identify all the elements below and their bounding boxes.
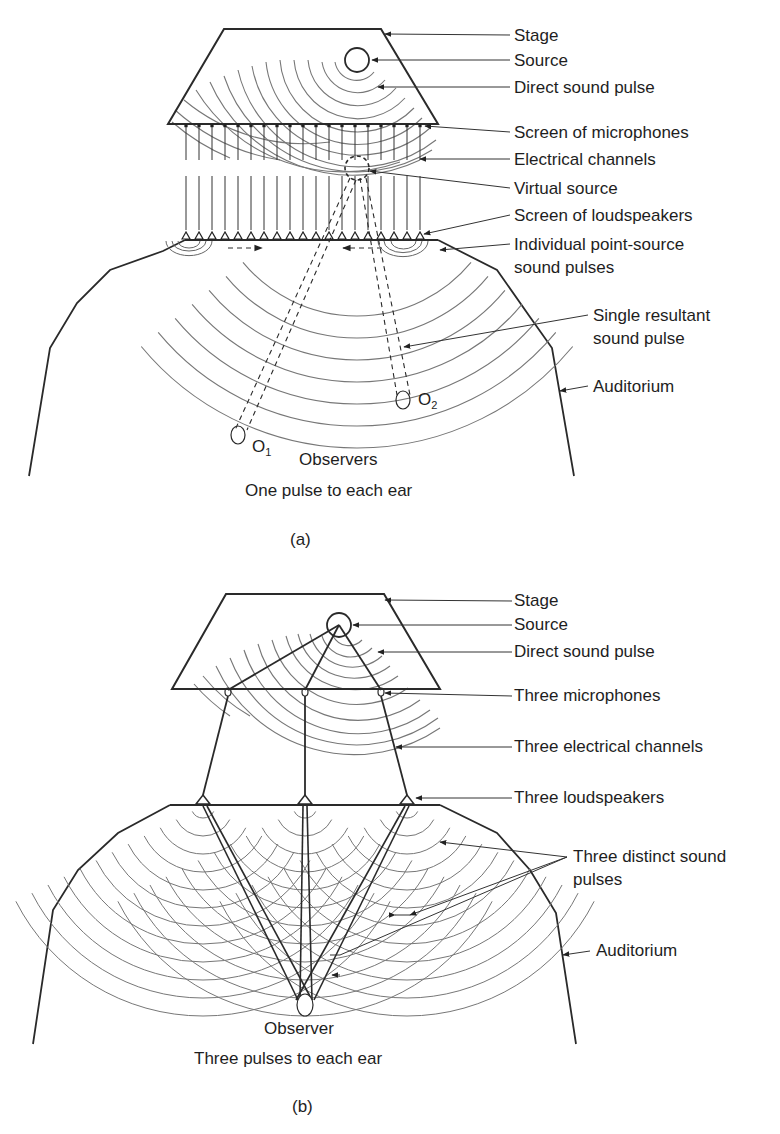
microphone [405, 124, 409, 128]
o1-text: O [252, 437, 265, 456]
label-resultant-1: Single resultant [593, 306, 710, 326]
loudspeaker [312, 232, 320, 239]
label-observer-o1: O1 [252, 437, 271, 462]
loudspeaker [390, 232, 398, 239]
loudspeaker [299, 232, 307, 239]
label-three-pulses: Three pulses to each ear [194, 1049, 382, 1069]
microphone [353, 124, 357, 128]
label-distinct-1: Three distinct sound [573, 847, 726, 867]
microphone [340, 124, 344, 128]
label-direct-pulse-a: Direct sound pulse [514, 78, 655, 98]
microphone [236, 124, 240, 128]
figure-a [29, 29, 588, 476]
label-distinct-2: pulses [573, 870, 622, 890]
label-stage-b: Stage [514, 591, 558, 611]
label-stage-a: Stage [514, 26, 558, 46]
virtual-source [345, 156, 369, 180]
loudspeaker [234, 232, 242, 239]
loudspeaker-1 [196, 795, 210, 804]
label-auditorium-a: Auditorium [593, 377, 674, 397]
loudspeaker-2 [298, 795, 312, 804]
microphone [327, 124, 331, 128]
label-point-pulses-1: Individual point-source [514, 235, 684, 255]
o2-text: O [418, 390, 431, 409]
o1-sub: 1 [265, 446, 271, 458]
label-observers: Observers [299, 450, 377, 470]
microphone [418, 124, 422, 128]
loudspeaker [325, 232, 333, 239]
loudspeaker [364, 232, 372, 239]
label-mic-screen: Screen of microphones [514, 123, 689, 143]
observer-b [297, 994, 313, 1016]
label-observer-b: Observer [264, 1019, 334, 1039]
loudspeaker [286, 232, 294, 239]
o2-sub: 2 [431, 399, 437, 411]
loudspeaker [416, 232, 424, 239]
label-channels-b: Three electrical channels [514, 737, 703, 757]
label-observer-o2: O2 [418, 390, 437, 415]
source-a [345, 48, 369, 72]
microphone [301, 124, 305, 128]
label-point-pulses-2: sound pulses [514, 258, 614, 278]
auditorium-a [29, 240, 185, 476]
label-one-pulse: One pulse to each ear [245, 481, 412, 501]
caption-b: (b) [292, 1097, 313, 1117]
label-channels-a: Electrical channels [514, 150, 656, 170]
label-resultant-2: sound pulse [593, 329, 685, 349]
loudspeaker [338, 232, 346, 239]
label-speaker-screen: Screen of loudspeakers [514, 206, 693, 226]
microphone [210, 124, 214, 128]
loudspeaker [260, 232, 268, 239]
microphone [184, 124, 188, 128]
loudspeaker [182, 232, 190, 239]
loudspeaker [403, 232, 411, 239]
microphone [249, 124, 253, 128]
loudspeaker [351, 232, 359, 239]
loudspeaker [273, 232, 281, 239]
figure-b [16, 594, 594, 1044]
loudspeaker [247, 232, 255, 239]
caption-a: (a) [290, 530, 311, 550]
loudspeaker [195, 232, 203, 239]
loudspeaker [208, 232, 216, 239]
label-source-a: Source [514, 51, 568, 71]
microphone [379, 124, 383, 128]
observer-o1 [231, 426, 245, 444]
loudspeaker-3 [400, 795, 414, 804]
microphone [262, 124, 266, 128]
label-source-b: Source [514, 615, 568, 635]
microphone [275, 124, 279, 128]
diagram-canvas [0, 0, 780, 1134]
label-speakers-b: Three loudspeakers [514, 788, 664, 808]
microphone [197, 124, 201, 128]
loudspeaker [221, 232, 229, 239]
label-direct-pulse-b: Direct sound pulse [514, 642, 655, 662]
stage-b [172, 594, 440, 689]
label-auditorium-b: Auditorium [596, 941, 677, 961]
microphone [223, 124, 227, 128]
microphone [392, 124, 396, 128]
label-virtual-source: Virtual source [514, 179, 618, 199]
microphone [366, 124, 370, 128]
microphone [314, 124, 318, 128]
microphone [288, 124, 292, 128]
label-mics-b: Three microphones [514, 686, 660, 706]
